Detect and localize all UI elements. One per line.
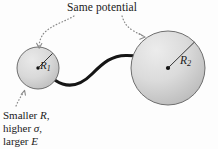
note-line-3: larger E [3, 135, 49, 148]
large-sphere-radius-symbol: R [180, 54, 187, 66]
small-sphere-radius-symbol: R [40, 59, 47, 71]
leader-line-right [122, 16, 143, 36]
note-line-2-prefix: higher [3, 122, 34, 134]
note-line-1-prefix: Smaller [3, 109, 40, 121]
large-sphere-radius-label: R2 [180, 54, 191, 69]
same-potential-label: Same potential [67, 1, 137, 15]
note-line-1-suffix: , [47, 109, 50, 121]
leader-arrowhead-right [139, 34, 145, 40]
connecting-wire [56, 55, 135, 85]
small-sphere-radius-subscript: 1 [47, 64, 51, 73]
leader-line-left [39, 16, 74, 46]
electrostatics-two-spheres-figure: Same potential R1 R2 Smaller R, higher σ… [0, 0, 218, 149]
note-line-2: higher σ, [3, 122, 49, 135]
large-sphere-radius-subscript: 2 [187, 59, 191, 68]
small-sphere-radius-label: R1 [40, 59, 51, 73]
note-line-1: Smaller R, [3, 109, 49, 122]
note-line-3-symbol: E [31, 135, 38, 147]
note-line-3-prefix: larger [3, 135, 31, 147]
note-line-1-symbol: R [40, 109, 47, 121]
leader-line-note [16, 93, 24, 107]
smaller-radius-note: Smaller R, higher σ, larger E [3, 109, 49, 148]
note-line-2-suffix: , [39, 122, 42, 134]
